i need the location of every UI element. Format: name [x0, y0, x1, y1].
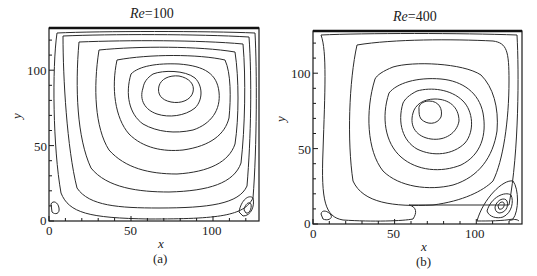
xtick-label-a-0: 0: [46, 223, 53, 239]
caption-b: (b): [416, 254, 431, 270]
ylabel-b: y: [273, 116, 289, 122]
title-b-value: =400: [408, 9, 437, 24]
y-ticks-a: [49, 40, 54, 221]
plot-b: [313, 31, 522, 224]
xtick-label-a-50: 50: [124, 223, 137, 239]
xtick-label-b-50: 50: [387, 226, 400, 242]
xtick-label-b-100: 100: [465, 226, 485, 242]
title-a-value: =100: [145, 6, 174, 21]
title-b-var: Re: [393, 9, 408, 24]
streamlines-a: [51, 32, 256, 220]
ytick-label-b-100: 100: [291, 66, 311, 82]
title-b: Re=400: [393, 9, 437, 25]
ytick-label-a-50: 50: [34, 139, 47, 155]
title-a-var: Re: [130, 6, 145, 21]
caption-a: (a): [153, 251, 167, 267]
figure-canvas: [0, 0, 537, 276]
y-ticks-b: [313, 43, 318, 224]
xtick-label-b-0: 0: [310, 226, 317, 242]
plot-a: [49, 28, 259, 221]
ytick-label-b-50: 50: [298, 142, 311, 158]
xlabel-a: x: [158, 236, 164, 252]
title-a: Re=100: [130, 6, 174, 22]
ylabel-a: y: [9, 113, 25, 119]
streamlines-b: [321, 34, 519, 222]
ytick-label-a-100: 100: [27, 63, 47, 79]
xtick-label-a-100: 100: [202, 223, 222, 239]
xlabel-b: x: [421, 239, 427, 255]
